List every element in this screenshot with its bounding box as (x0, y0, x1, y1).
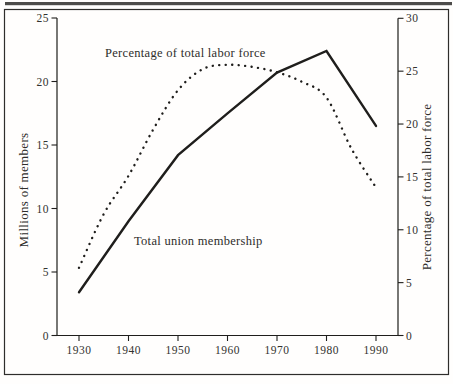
right-axis-tick-label: 5 (406, 277, 412, 289)
left-axis-tick-label: 15 (37, 139, 50, 151)
right-axis-title: Percentage of total labor force (419, 104, 434, 271)
scanned-figure-page: 0510152025051015202530193019401950196019… (0, 0, 453, 384)
right-axis-tick-label: 10 (406, 224, 419, 236)
x-axis-tick-label: 1990 (364, 344, 389, 356)
left-axis-tick-label: 25 (37, 12, 50, 24)
right-axis-tick-label: 30 (406, 12, 419, 24)
union-membership-chart: 0510152025051015202530193019401950196019… (0, 0, 453, 384)
right-axis-tick-label: 25 (406, 65, 419, 77)
left-axis-tick-label: 0 (43, 330, 49, 342)
solid-series-label: Total union membership (134, 234, 263, 248)
right-axis-tick-label: 20 (406, 118, 419, 130)
x-axis-tick-label: 1940 (116, 344, 141, 356)
left-axis-tick-label: 20 (37, 76, 50, 88)
x-axis-tick-label: 1970 (265, 344, 290, 356)
scan-artifact-strip (5, 2, 452, 5)
left-axis-title: Millions of members (16, 133, 31, 248)
x-axis-tick-label: 1950 (166, 344, 191, 356)
right-axis-tick-label: 0 (406, 330, 412, 342)
x-axis-tick-label: 1930 (67, 344, 92, 356)
right-axis-tick-label: 15 (406, 171, 419, 183)
x-axis-tick-label: 1960 (215, 344, 240, 356)
dotted-series-label: Percentage of total labor force (105, 46, 266, 60)
x-axis-tick-label: 1980 (314, 344, 339, 356)
left-axis-tick-label: 5 (43, 266, 49, 278)
left-axis-tick-label: 10 (37, 203, 50, 215)
